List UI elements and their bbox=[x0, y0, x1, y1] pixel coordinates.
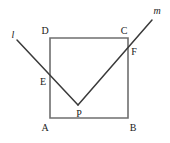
geometry-figure: D C A B E F P l m bbox=[0, 0, 170, 143]
square-abcd bbox=[50, 38, 128, 118]
vertex-label-c: C bbox=[121, 26, 128, 36]
line-label-m: m bbox=[153, 6, 160, 16]
vertex-label-a: A bbox=[41, 123, 48, 133]
line-label-l: l bbox=[12, 30, 15, 40]
vertex-label-b: B bbox=[130, 123, 137, 133]
ray-l bbox=[17, 40, 78, 105]
vertex-label-d: D bbox=[41, 26, 48, 36]
point-label-f: F bbox=[131, 47, 137, 57]
point-label-e: E bbox=[40, 77, 46, 87]
geometry-canvas bbox=[0, 0, 170, 143]
point-label-p: P bbox=[76, 109, 82, 119]
ray-m bbox=[78, 20, 152, 105]
